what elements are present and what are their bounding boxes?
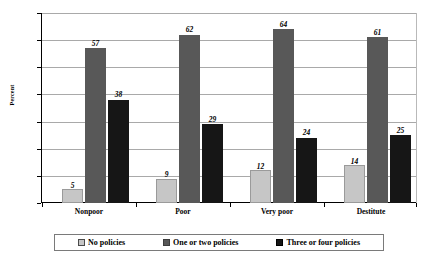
bar-value-label: 62 — [186, 26, 194, 34]
bar-value-label: 14 — [351, 158, 359, 166]
bar-destitute-three-or-four[interactable]: 25 — [390, 135, 411, 203]
bar-chart: Percent 70 60 50 40 30 20 10 0 5 57 — [0, 0, 431, 259]
bar-group-poor: 9 62 29 — [150, 13, 244, 203]
bar-value-label: 61 — [374, 29, 382, 37]
bar-very-poor-three-or-four[interactable]: 24 — [296, 138, 317, 203]
bar-poor-no-policies[interactable]: 9 — [156, 179, 177, 203]
bar-destitute-no-policies[interactable]: 14 — [344, 165, 365, 203]
x-tick-1 — [136, 203, 137, 207]
legend-label: One or two policies — [173, 239, 238, 247]
legend-label: Three or four policies — [286, 239, 360, 247]
legend-item-three-or-four-policies[interactable]: Three or four policies — [276, 239, 360, 247]
bar-value-label: 57 — [92, 40, 100, 48]
bar-value-label: 12 — [257, 163, 265, 171]
legend-swatch-icon — [78, 239, 85, 246]
bar-value-label: 64 — [280, 21, 288, 29]
category-label-very-poor: Very poor — [230, 208, 324, 216]
y-axis-title: Percent — [9, 65, 15, 125]
bar-very-poor-no-policies[interactable]: 12 — [250, 170, 271, 203]
bar-poor-one-or-two[interactable]: 62 — [179, 35, 200, 203]
bar-nonpoor-no-policies[interactable]: 5 — [62, 189, 83, 203]
category-label-destitute: Destitute — [324, 208, 418, 216]
bar-group-very-poor: 12 64 24 — [244, 13, 338, 203]
chart-legend: No policies One or two policies Three or… — [54, 234, 384, 251]
bar-group-destitute: 14 61 25 — [338, 13, 431, 203]
y-tick-mark-0 — [37, 203, 41, 204]
legend-swatch-icon — [163, 239, 170, 246]
category-label-poor: Poor — [136, 208, 230, 216]
x-tick-3 — [324, 203, 325, 207]
legend-item-one-or-two-policies[interactable]: One or two policies — [163, 239, 238, 247]
bar-value-label: 24 — [303, 129, 311, 137]
x-tick-4 — [416, 203, 417, 207]
bar-value-label: 5 — [71, 182, 75, 190]
bar-nonpoor-one-or-two[interactable]: 57 — [85, 48, 106, 203]
legend-item-no-policies[interactable]: No policies — [78, 239, 125, 247]
bar-value-label: 29 — [209, 116, 217, 124]
bar-destitute-one-or-two[interactable]: 61 — [367, 37, 388, 203]
bar-nonpoor-three-or-four[interactable]: 38 — [108, 100, 129, 203]
x-tick-0 — [42, 203, 43, 207]
bar-groups: 5 57 38 9 62 29 12 64 — [42, 13, 417, 203]
bar-poor-three-or-four[interactable]: 29 — [202, 124, 223, 203]
x-tick-2 — [230, 203, 231, 207]
bar-value-label: 38 — [115, 91, 123, 99]
bar-value-label: 9 — [165, 171, 169, 179]
legend-swatch-icon — [276, 239, 283, 246]
legend-label: No policies — [88, 239, 125, 247]
bar-very-poor-one-or-two[interactable]: 64 — [273, 29, 294, 203]
bar-value-label: 25 — [397, 127, 405, 135]
category-label-nonpoor: Nonpoor — [42, 208, 136, 216]
bar-group-nonpoor: 5 57 38 — [56, 13, 150, 203]
